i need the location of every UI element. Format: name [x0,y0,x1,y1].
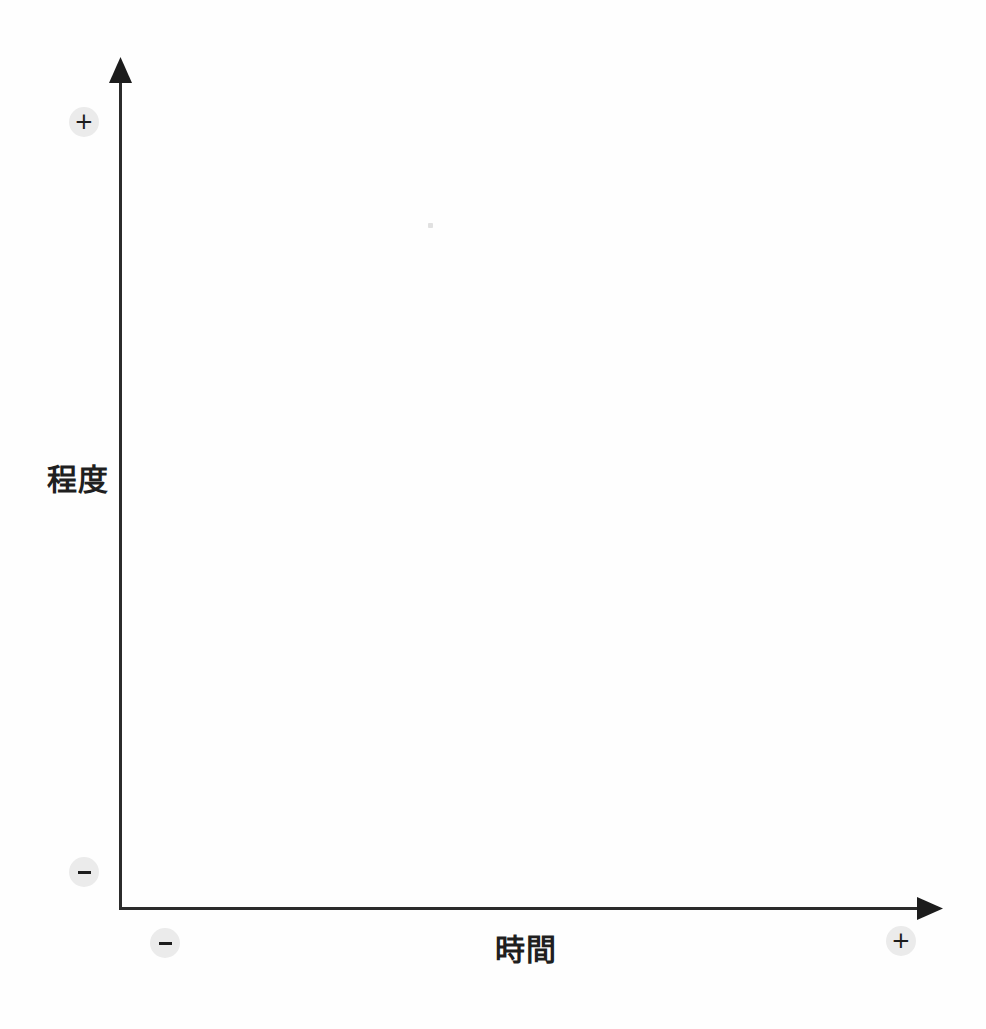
axis-system: + + 程度 時間 [0,0,986,1029]
x-axis-arrowhead-icon [917,897,943,920]
scan-artifact-speck [428,223,433,228]
x-axis-label: 時間 [495,925,557,969]
plus-icon: + [891,929,910,952]
minus-icon [159,942,172,945]
minus-icon [78,871,91,874]
y-axis-label: 程度 [47,455,109,499]
x-axis-positive-badge: + [886,926,916,956]
y-axis-arrowhead-icon [109,57,132,83]
y-axis-positive-badge: + [69,107,99,137]
chart-canvas: + + 程度 時間 [0,0,986,1029]
plus-icon: + [74,110,93,133]
y-axis-negative-badge [69,857,99,887]
x-axis-negative-badge [150,928,180,958]
axis-lines-svg [0,0,986,1029]
